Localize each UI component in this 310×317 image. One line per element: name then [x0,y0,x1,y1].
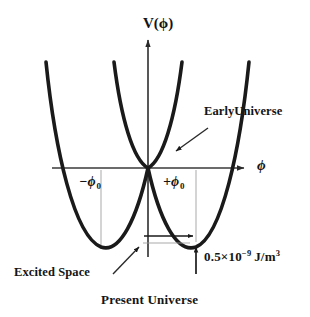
label-vacuum-energy-value: 0.5×10−9 J/m3 [204,250,280,263]
potential-energy-figure: V(ϕ) ϕ −ϕ0 +ϕ0 EarlyUniverse Excited Spa… [0,0,310,317]
tick-negative-text: −ϕ [79,174,96,189]
energy-exponent: −9 [242,248,252,258]
energy-mantissa: 0.5×10 [204,249,242,264]
label-excited-space: Excited Space [14,266,90,279]
x-axis-label: ϕ [257,158,266,173]
label-early-universe: EarlyUniverse [204,105,282,118]
energy-units-exponent: 3 [276,248,280,258]
y-axis-label: V(ϕ) [143,16,173,31]
y-axis-label-text: V(ϕ) [143,15,173,31]
tick-label-positive-phi-zero: +ϕ0 [163,175,184,189]
tick-negative-subscript: 0 [97,181,102,191]
leader-line-early-universe [176,128,208,151]
figure-caption: Present Universe [101,293,198,306]
tick-positive-text: +ϕ [163,174,179,189]
tick-label-negative-phi-zero: −ϕ0 [79,175,100,189]
leader-line-excited-space [113,247,139,274]
horizontal-dimension-group [143,236,193,243]
tick-positive-subscript: 0 [180,181,185,191]
energy-units: J/m [254,249,276,264]
